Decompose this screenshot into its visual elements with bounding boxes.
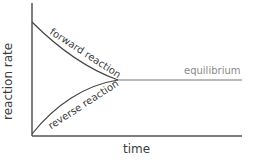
reaction-rate-diagram: [0, 0, 257, 165]
y-axis-label: reaction rate: [1, 43, 15, 120]
equilibrium-label: equilibrium: [184, 65, 241, 76]
x-axis-label: time: [123, 142, 150, 156]
